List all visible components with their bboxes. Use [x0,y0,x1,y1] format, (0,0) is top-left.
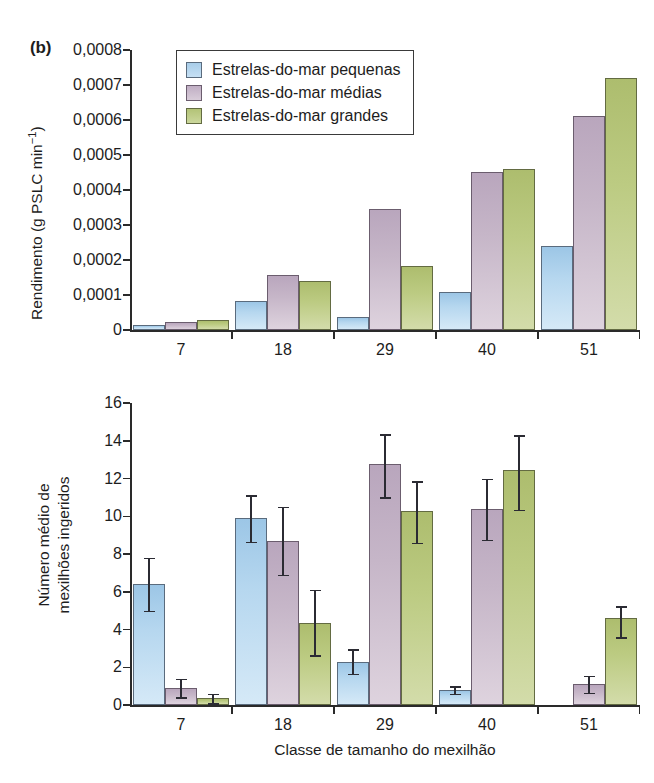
legend-label-medias: Estrelas-do-mar médias [212,84,382,102]
chart-numero-mexilhoes: 0246810121416718294051Número médio de me… [0,375,654,783]
legend-item-pequenas[interactable]: Estrelas-do-mar pequenas [186,58,401,81]
legend-item-medias[interactable]: Estrelas-do-mar médias [186,81,401,104]
error-bar-cap-lower [412,543,423,545]
bar[interactable] [197,320,229,331]
y-tick-label: 0,0003 [44,216,122,234]
error-bar-cap-lower [616,637,627,639]
error-bar-stem [384,434,386,497]
x-tick [231,332,233,339]
y-tick [123,591,130,593]
y-tick-label: 0,0006 [44,111,122,129]
y-tick [123,259,130,261]
x-tick [537,707,539,714]
legend-swatch-icon-pequenas [186,62,202,78]
error-bar-stem [282,507,284,575]
error-bar-cap-upper [278,507,289,509]
y-axis-title-top: Rendimento (g PSLC min−1) [26,126,46,320]
error-bar-cap-lower [208,703,219,705]
error-bar-stem [250,495,252,541]
legend-label-grandes: Estrelas-do-mar grandes [212,107,388,125]
error-bar-cap-upper [208,694,219,696]
error-bar-cap-upper [450,686,461,688]
y-axis-line [130,403,132,707]
y-tick [123,478,130,480]
y-tick-label: 0,0005 [44,146,122,164]
y-tick-label: 0,0008 [44,41,122,59]
x-tick-label: 51 [549,341,629,359]
y-tick [123,224,130,226]
x-tick [537,332,539,339]
error-bar-cap-upper [310,590,321,592]
y-tick-label: 16 [44,394,122,412]
y-tick [123,402,130,404]
bar[interactable] [605,78,637,330]
error-bar-cap-upper [482,479,493,481]
error-bar-cap-lower [482,540,493,542]
error-bar-cap-lower [176,697,187,699]
error-bar-cap-upper [380,434,391,436]
y-tick [123,294,130,296]
error-bar-stem [416,481,418,542]
y-tick [123,440,130,442]
bar[interactable] [299,281,331,330]
x-tick [231,707,233,714]
x-tick-label: 40 [447,716,527,734]
bar[interactable] [133,325,165,330]
y-tick-label: 0,0002 [44,251,122,269]
legend-swatch-icon-grandes [186,108,202,124]
legend: Estrelas-do-mar pequenas Estrelas-do-mar… [176,50,414,135]
bar[interactable] [541,246,573,330]
y-tick-label: 0,0001 [44,286,122,304]
y-tick [123,667,130,669]
x-axis-line [130,705,640,707]
plot-area-bottom: 0246810121416718294051Número médio de me… [0,375,654,783]
error-bar-cap-upper [144,558,155,560]
y-tick [123,553,130,555]
y-tick [123,629,130,631]
y-tick [123,49,130,51]
error-bar-cap-lower [348,674,359,676]
error-bar-cap-lower [584,693,595,695]
y-axis-title-bottom: Número médio de mexilhões ingeridos [34,425,74,665]
bar[interactable] [235,518,267,705]
y-tick [123,154,130,156]
x-tick-label: 29 [345,341,425,359]
bar[interactable] [165,322,197,330]
error-bar-cap-upper [514,435,525,437]
error-bar-stem [148,558,150,611]
bar[interactable] [503,169,535,330]
y-tick [123,84,130,86]
error-bar-cap-lower [514,510,525,512]
y-tick-label: 0,0007 [44,76,122,94]
bar[interactable] [267,275,299,330]
x-tick-label: 7 [141,341,221,359]
x-tick-label: 7 [141,716,221,734]
bar[interactable] [471,172,503,330]
y-tick-label: 0,0004 [44,181,122,199]
error-bar-cap-lower [450,694,461,696]
y-tick-label: 0 [44,321,122,339]
bar[interactable] [337,317,369,330]
legend-item-grandes[interactable]: Estrelas-do-mar grandes [186,104,401,127]
bar[interactable] [439,292,471,330]
y-axis-line [130,50,132,332]
bar[interactable] [235,301,267,330]
bar[interactable] [369,464,401,705]
x-axis-title: Classe de tamanho do mexilhão [130,741,640,759]
error-bar-stem [518,435,520,510]
y-tick [123,189,130,191]
error-bar-cap-lower [310,655,321,657]
error-bar-cap-upper [246,495,257,497]
legend-label-pequenas: Estrelas-do-mar pequenas [212,61,401,79]
error-bar-cap-lower [246,542,257,544]
y-tick [123,329,130,331]
bar[interactable] [573,116,605,330]
error-bar-cap-lower [380,497,391,499]
x-tick [435,707,437,714]
error-bar-cap-upper [176,679,187,681]
bar[interactable] [369,209,401,330]
y-tick-label: 0 [44,696,122,714]
y-tick [123,704,130,706]
bar[interactable] [401,266,433,330]
error-bar-cap-lower [278,575,289,577]
